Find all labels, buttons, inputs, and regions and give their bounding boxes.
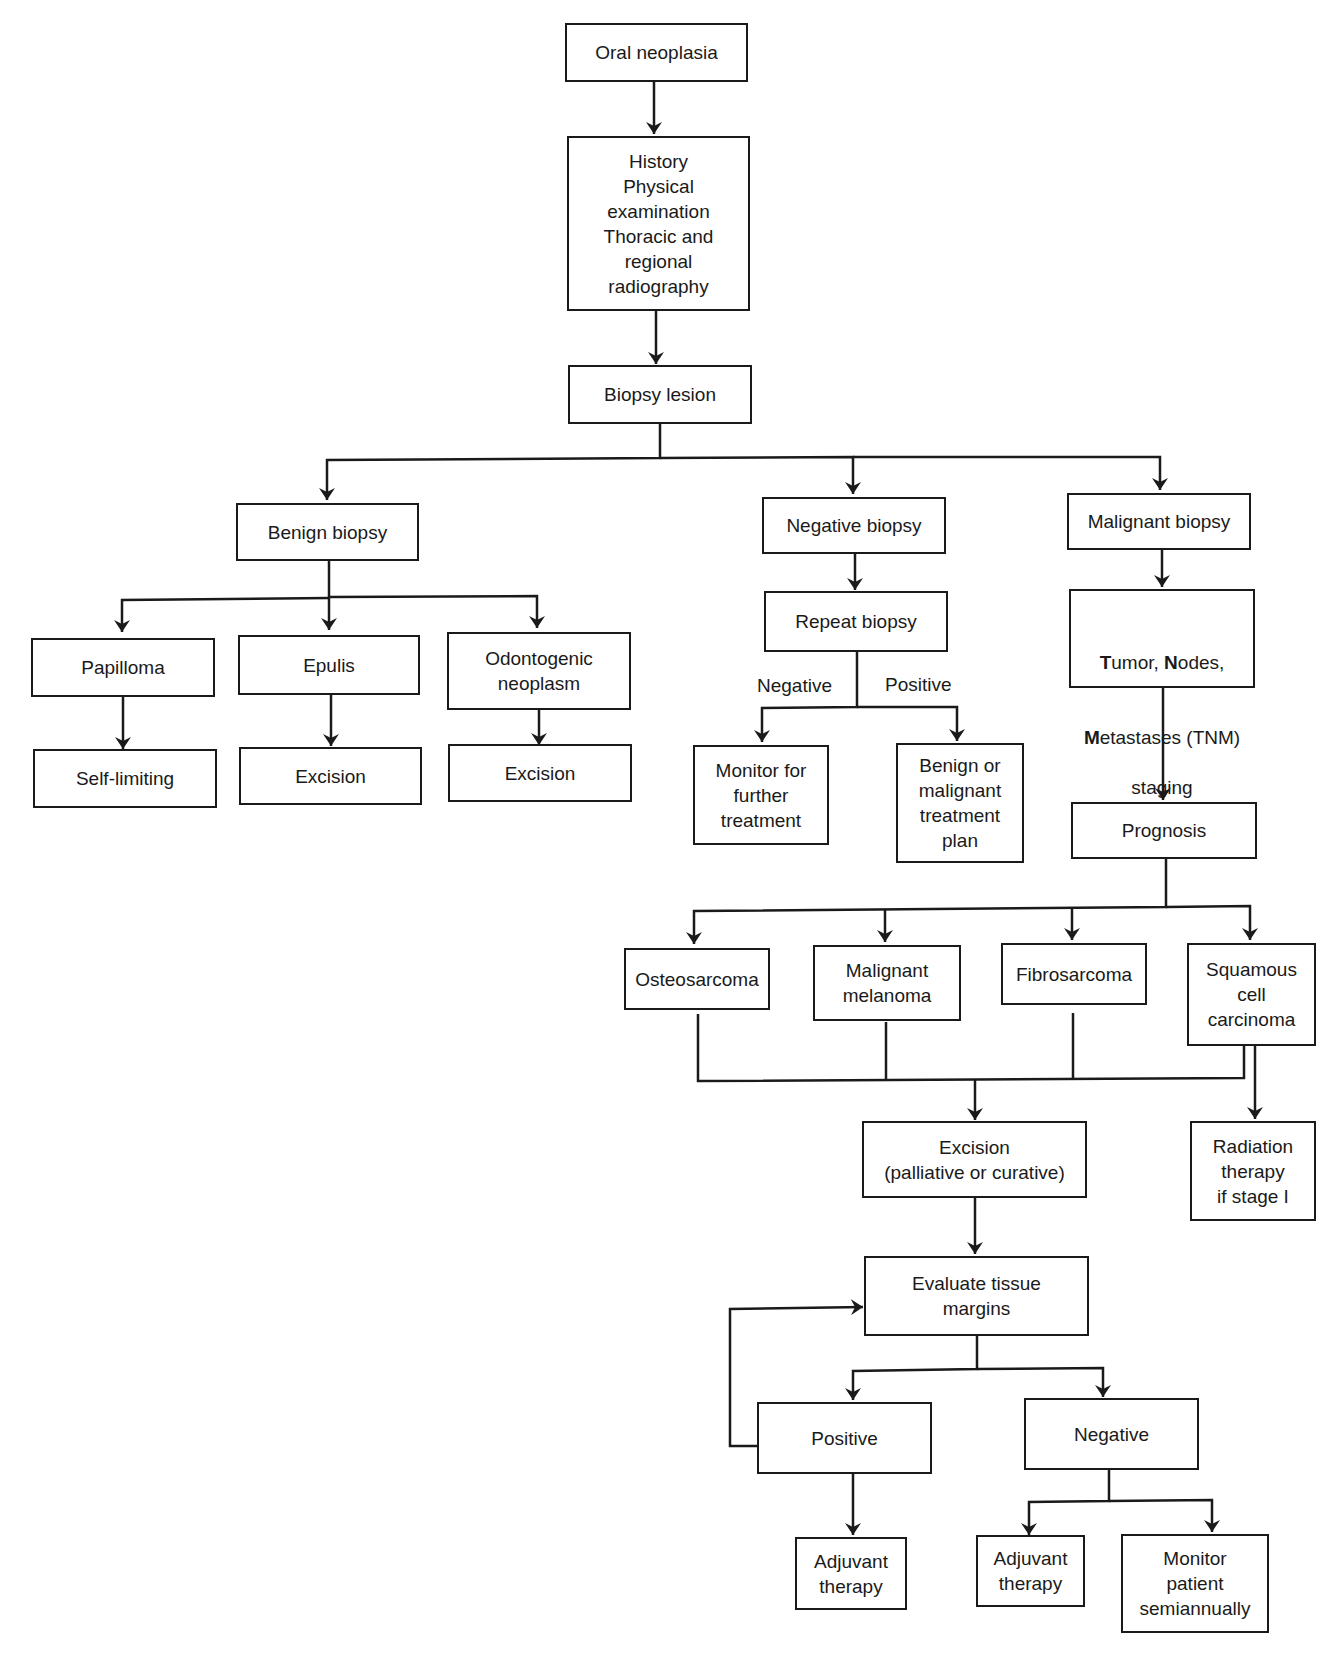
tnm-text-t: umor, <box>1111 652 1164 673</box>
node-excision-main: Excision (palliative or curative) <box>862 1121 1087 1198</box>
node-papilloma: Papilloma <box>31 638 215 697</box>
node-prognosis: Prognosis <box>1071 802 1257 859</box>
tnm-line-1: Tumor, Nodes, <box>1075 625 1249 675</box>
tnm-initial-m: M <box>1084 727 1100 748</box>
edge-label-positive: Positive <box>885 674 952 696</box>
node-excision-epulis: Excision <box>239 747 422 805</box>
node-evaluate-tissue-margins: Evaluate tissue margins <box>864 1256 1089 1336</box>
node-malignant-melanoma: Malignant melanoma <box>813 945 961 1021</box>
node-oral-neoplasia: Oral neoplasia <box>565 23 748 82</box>
node-fibrosarcoma: Fibrosarcoma <box>1001 943 1147 1005</box>
node-margins-positive: Positive <box>757 1402 932 1474</box>
node-monitor-patient-semiannually: Monitor patient semiannually <box>1121 1534 1269 1633</box>
node-tnm-staging: Tumor, Nodes, Metastases (TNM) staging <box>1069 589 1255 688</box>
node-negative-biopsy: Negative biopsy <box>762 497 946 554</box>
node-epulis: Epulis <box>238 635 420 695</box>
node-repeat-biopsy: Repeat biopsy <box>764 591 948 652</box>
node-adjuvant-therapy-positive: Adjuvant therapy <box>795 1537 907 1610</box>
node-benign-biopsy: Benign biopsy <box>236 503 419 561</box>
node-adjuvant-therapy-negative: Adjuvant therapy <box>976 1535 1085 1607</box>
node-osteosarcoma: Osteosarcoma <box>624 948 770 1010</box>
tnm-text-m: etastases (TNM) <box>1100 727 1240 748</box>
flowchart-canvas: Oral neoplasia History Physical examinat… <box>0 0 1337 1658</box>
node-radiation-therapy: Radiation therapy if stage I <box>1190 1121 1316 1221</box>
tnm-initial-n: N <box>1164 652 1178 673</box>
node-self-limiting: Self-limiting <box>33 749 217 808</box>
node-malignant-biopsy: Malignant biopsy <box>1067 493 1251 550</box>
node-monitor-further-treatment: Monitor for further treatment <box>693 745 829 845</box>
node-odontogenic-neoplasm: Odontogenic neoplasm <box>447 632 631 710</box>
node-squamous-cell-carcinoma: Squamous cell carcinoma <box>1187 943 1316 1046</box>
node-excision-odontogenic: Excision <box>448 744 632 802</box>
node-workup: History Physical examination Thoracic an… <box>567 136 750 311</box>
node-margins-negative: Negative <box>1024 1398 1199 1470</box>
tnm-initial-t: T <box>1100 652 1112 673</box>
tnm-line-2: Metastases (TNM) <box>1075 700 1249 750</box>
node-biopsy-lesion: Biopsy lesion <box>568 365 752 424</box>
tnm-text-n: odes, <box>1178 652 1224 673</box>
edge-label-negative: Negative <box>757 675 832 697</box>
tnm-line-3: staging <box>1075 775 1249 800</box>
node-benign-or-malignant-plan: Benign or malignant treatment plan <box>896 743 1024 863</box>
